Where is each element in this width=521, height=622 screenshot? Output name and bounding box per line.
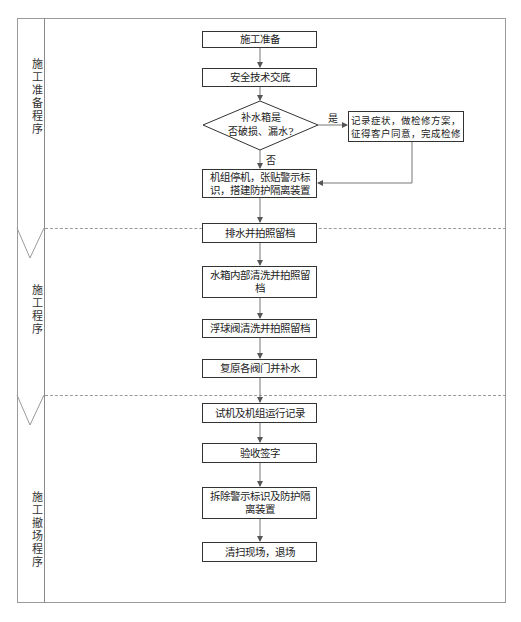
- connector-lines: [0, 0, 521, 622]
- lane-label-construction: 施工程序: [17, 280, 44, 340]
- node-tank-clean: 水箱内部清洗并拍照留档: [202, 266, 317, 298]
- node-record-and-repair: 记录症状，做检修方案，征得客户同意，完成检修: [348, 111, 464, 142]
- edge-label-no: 否: [266, 152, 276, 167]
- node-trial-run: 试机及机组运行记录: [202, 403, 317, 423]
- decision-line-2: 否破损、漏水?: [222, 125, 300, 139]
- node-float-valve-clean: 浮球阀清洗并拍照留档: [202, 319, 317, 338]
- lane-label-withdrawal: 施工撤场程序: [17, 485, 44, 575]
- node-drain-and-photo: 排水并拍照留档: [202, 223, 317, 243]
- node-construction-prep: 施工准备: [202, 31, 317, 48]
- edge-label-yes: 是: [328, 110, 338, 125]
- node-cleanup-exit: 清扫现场，退场: [202, 542, 317, 562]
- decision-line-1: 补水箱是: [222, 111, 300, 125]
- node-acceptance-sign: 验收签字: [202, 443, 317, 463]
- node-shutdown-and-isolate: 机组停机，张贴警示标识，搭建防护隔离装置: [202, 169, 317, 198]
- node-restore-valves: 复原各阀门并补水: [202, 359, 317, 378]
- lane-label-preparation: 施工准备程序: [17, 52, 44, 142]
- decision-tank-damaged: 补水箱是 否破损、漏水?: [222, 111, 300, 139]
- node-remove-signs: 拆除警示标识及防护隔离装置: [202, 487, 317, 519]
- node-safety-briefing: 安全技术交底: [202, 68, 317, 87]
